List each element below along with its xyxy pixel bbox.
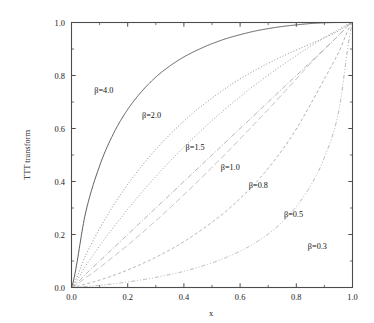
ttt-transform-chart: 0.00.20.40.60.81.00.00.20.40.60.81.0 β=4… bbox=[0, 0, 374, 323]
curve-label-beta-1-5: β=1.5 bbox=[186, 143, 205, 152]
x-tick-label: 0.4 bbox=[179, 293, 190, 302]
curve-label-beta-0-5: β=0.5 bbox=[284, 210, 303, 219]
x-tick-label: 0.8 bbox=[291, 293, 301, 302]
y-tick-label: 1.0 bbox=[55, 19, 65, 28]
chart-canvas: 0.00.20.40.60.81.00.00.20.40.60.81.0 β=4… bbox=[0, 0, 374, 323]
y-tick-label: 0.4 bbox=[55, 178, 66, 187]
y-tick-label: 0.8 bbox=[55, 72, 65, 81]
curve-label-beta-0-3: β=0.3 bbox=[308, 242, 327, 251]
curve-label-beta-4: β=4.0 bbox=[94, 86, 113, 95]
x-tick-label: 0.6 bbox=[235, 293, 245, 302]
y-tick-label: 0.0 bbox=[55, 284, 65, 293]
x-tick-label: 0.0 bbox=[66, 293, 76, 302]
x-axis-title: x bbox=[209, 309, 214, 318]
curve-label-beta-0-8: β=0.8 bbox=[249, 181, 268, 190]
x-tick-label: 1.0 bbox=[347, 293, 357, 302]
curve-label-beta-1: β=1.0 bbox=[221, 163, 240, 172]
y-axis-title: TTT transform bbox=[23, 130, 32, 180]
y-tick-label: 0.6 bbox=[55, 125, 65, 134]
curve-label-beta-2: β=2.0 bbox=[142, 111, 161, 120]
y-tick-label: 0.2 bbox=[55, 231, 65, 240]
x-tick-label: 0.2 bbox=[122, 293, 132, 302]
